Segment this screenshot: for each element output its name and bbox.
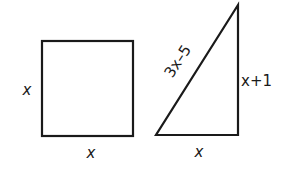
square-figure: x x bbox=[22, 41, 133, 162]
square-shape bbox=[42, 41, 133, 136]
triangle-figure: 3x–5 x+1 x bbox=[156, 5, 272, 161]
square-left-label: x bbox=[22, 81, 32, 99]
vertical-side-label: x+1 bbox=[241, 72, 272, 90]
triangle-base-label: x bbox=[194, 143, 204, 161]
hypotenuse-label: 3x–5 bbox=[161, 42, 195, 82]
diagram-canvas: x x 3x–5 x+1 x bbox=[0, 0, 289, 172]
square-bottom-label: x bbox=[86, 144, 96, 162]
